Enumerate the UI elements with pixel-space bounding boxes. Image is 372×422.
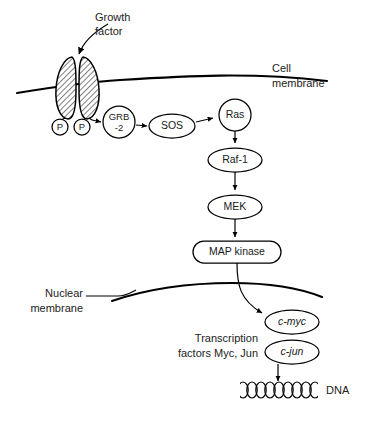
transcription-factors-label-line2: factors Myc, Jun [178,347,258,359]
growth-factor-label-line2: factor [95,25,123,37]
arrow-receptor-to-grb2 [92,120,101,122]
arrow-mapkinase-to-cmyc [237,263,262,313]
node-sos-label: SOS [161,119,183,131]
phospho-label-left: P [57,121,63,132]
node-grb2-label-line2: -2 [115,122,123,133]
pathway-svg-canvas: P P GRB -2 SOS Ras Raf-1 MEK M [0,0,372,422]
dna-label: DNA [326,384,350,396]
node-cjun-label: c-jun [281,345,304,357]
node-mek-label: MEK [224,200,247,212]
node-raf1-label: Raf-1 [222,153,248,165]
node-ras-label: Ras [226,108,245,120]
cell-membrane-label-line1: Cell [272,62,291,74]
cell-membrane-label-line2: membrane [272,77,325,89]
arrow-sos-to-ras [196,118,213,122]
receptor-subunit-right [79,57,99,119]
pathway-diagram: P P GRB -2 SOS Ras Raf-1 MEK M [0,0,372,422]
caption-strip [0,412,372,422]
growth-factor-label-line1: Growth [95,11,130,23]
node-grb2-label-line1: GRB [109,111,130,122]
receptor-subunit-left [56,57,76,119]
transcription-factors-label-line1: Transcription [195,332,258,344]
receptor-stem-right [89,118,92,120]
nuclear-membrane-label-line1: Nuclear [45,287,83,299]
phospho-label-right: P [79,121,85,132]
nuclear-membrane-curve [112,283,322,301]
dna-helix [236,381,322,399]
arrow-grb2-to-sos [136,125,147,126]
node-cmyc-label: c-myc [278,315,307,327]
node-mapkinase-label: MAP kinase [209,245,265,257]
nuclear-membrane-label-line2: membrane [30,302,83,314]
